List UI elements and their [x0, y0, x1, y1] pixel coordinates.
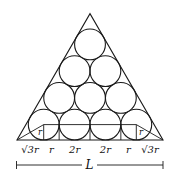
triangle-circle-packing-diagram: r r √3r r 2r 2r r √3r L: [0, 0, 173, 182]
base-label: √3r: [141, 144, 160, 155]
circle: [75, 29, 106, 60]
dimension-label: L: [85, 158, 94, 172]
circle: [105, 83, 136, 114]
circle: [90, 56, 121, 87]
inner-label-left: r: [38, 127, 43, 137]
base-label: r: [49, 144, 55, 155]
circle: [75, 83, 106, 114]
base-labels: √3r r 2r 2r r √3r: [21, 144, 160, 155]
base-label: r: [126, 144, 132, 155]
circles: [28, 29, 151, 140]
dimension-line: L: [17, 158, 164, 172]
circle: [44, 83, 75, 114]
base-label: √3r: [21, 144, 40, 155]
base-label: 2r: [68, 144, 81, 155]
base-label: 2r: [99, 144, 112, 155]
circle: [59, 56, 90, 87]
